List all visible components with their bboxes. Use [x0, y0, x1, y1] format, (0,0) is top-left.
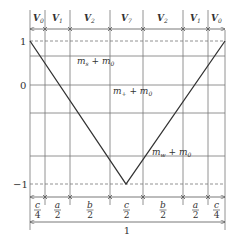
- svg-text:4: 4: [214, 210, 220, 220]
- y-tick-1: 1: [20, 36, 26, 47]
- fraction-c-4-right: c 4: [213, 200, 220, 220]
- fraction-b-2-left: b 2: [87, 200, 94, 220]
- label-v1-right: V1: [190, 13, 201, 24]
- label-v2-left: V2: [84, 13, 95, 24]
- y-tick-0: 0: [20, 80, 26, 91]
- y-tick-minus-1: −1: [13, 179, 28, 190]
- fraction-c-4-left: c 4: [34, 200, 41, 220]
- svg-text:2: 2: [124, 210, 130, 220]
- bottom-dimension-line: [30, 195, 225, 199]
- diagram-canvas: V0 V1 V2 V7 V2 V1 V0 1 0 −1 ms + m0 m+ +…: [0, 0, 237, 245]
- fraction-c-2-center: c 2: [123, 200, 130, 220]
- top-segment-labels: V0 V1 V2 V7 V2 V1 V0: [33, 13, 222, 24]
- fraction-a-2-left: a 2: [54, 200, 61, 220]
- bottom-fraction-labels: c 4 a 2 b 2 c 2 b 2 a 2 c: [34, 200, 220, 220]
- svg-text:c: c: [214, 200, 219, 210]
- label-v1-left: V1: [52, 13, 63, 24]
- svg-text:2: 2: [193, 210, 199, 220]
- svg-text:a: a: [193, 200, 198, 210]
- total-width-label: 1: [124, 225, 130, 236]
- fraction-b-2-right: b 2: [160, 200, 167, 220]
- annotations: ms + m0 m+ + m0 mw + m0: [77, 56, 191, 158]
- label-v0-right: V0: [211, 13, 222, 24]
- y-tick-labels: 1 0 −1: [13, 36, 28, 190]
- horizontal-grid-lines: [30, 41, 225, 184]
- svg-text:a: a: [55, 200, 60, 210]
- svg-text:c: c: [124, 200, 129, 210]
- label-v2-right: V2: [157, 13, 168, 24]
- top-dimension-line: [30, 27, 225, 31]
- svg-text:4: 4: [35, 210, 41, 220]
- waveform-line: [30, 41, 225, 184]
- svg-text:c: c: [35, 200, 40, 210]
- annotation-middle: m+ + m0: [113, 86, 152, 97]
- svg-text:b: b: [160, 200, 166, 210]
- label-v7: V7: [121, 13, 132, 24]
- svg-text:2: 2: [55, 210, 61, 220]
- svg-text:b: b: [87, 200, 93, 210]
- fraction-a-2-right: a 2: [192, 200, 199, 220]
- label-v0-left: V0: [33, 13, 44, 24]
- svg-text:2: 2: [160, 210, 166, 220]
- annotation-bottom: mw + m0: [152, 147, 191, 158]
- svg-text:2: 2: [87, 210, 93, 220]
- annotation-top: ms + m0: [77, 56, 114, 67]
